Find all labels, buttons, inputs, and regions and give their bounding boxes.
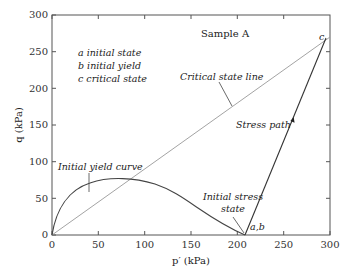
y-tick-label: 50 <box>35 193 48 204</box>
x-tick-label: 100 <box>135 239 154 250</box>
y-tick-label: 0 <box>42 229 48 240</box>
legend-b: b initial yield <box>78 60 141 71</box>
y-tick-label: 200 <box>29 83 48 94</box>
x-tick-label: 200 <box>228 239 247 250</box>
x-tick-label: 150 <box>181 239 200 250</box>
point-label-c: c <box>319 31 325 42</box>
x-axis-label: p′ (kPa) <box>172 255 210 266</box>
x-tick-label: 50 <box>92 239 105 250</box>
y-tick-label: 300 <box>29 9 48 20</box>
leader-line <box>219 82 232 106</box>
x-tick-label: 300 <box>320 239 339 250</box>
point-label-ab: a,b <box>250 221 265 232</box>
legend-a: a initial state <box>78 47 142 58</box>
x-tick-label: 250 <box>274 239 293 250</box>
y-tick-label: 100 <box>29 156 48 167</box>
x-tick-label: 0 <box>49 239 55 250</box>
annotation-csl: Critical state line <box>180 71 264 82</box>
legend-c: c critical state <box>78 73 147 84</box>
annotation-yield-curve: Initial yield curve <box>57 161 143 172</box>
y-tick-label: 250 <box>29 46 48 57</box>
chart-figure: 0 50 100 150 200 250 300 0 50 100 150 20… <box>0 0 354 278</box>
y-tick-label: 150 <box>29 119 48 130</box>
chart-svg: 0 50 100 150 200 250 300 0 50 100 150 20… <box>0 0 354 278</box>
stress-path <box>245 38 326 235</box>
annotation-initial-stress: Initial stressstate <box>202 191 263 214</box>
initial-yield-curve <box>52 179 245 235</box>
chart-title: Sample A <box>201 28 250 39</box>
y-axis-label: q (kPa) <box>13 107 24 143</box>
annotation-stress-path: Stress path <box>236 119 291 130</box>
